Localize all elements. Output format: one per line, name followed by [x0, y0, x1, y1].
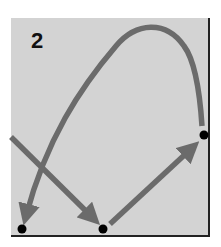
node-bottom-left [18, 225, 27, 234]
node-bottom-middle [99, 225, 108, 234]
arrow-diagonal-up [110, 148, 192, 224]
diagram-graphics [0, 0, 221, 247]
node-right [200, 131, 209, 140]
arrow-big-arc [26, 27, 202, 216]
